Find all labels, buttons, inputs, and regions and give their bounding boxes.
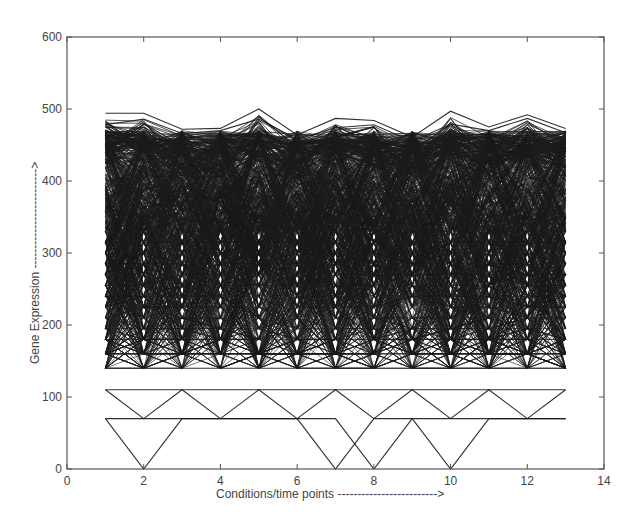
y-axis-label: Gene Expression ------------------------…	[28, 162, 42, 364]
x-tick-label: 14	[597, 474, 611, 488]
x-tick-label: 4	[217, 474, 224, 488]
x-tick-label: 12	[521, 474, 535, 488]
y-tick-label: 100	[42, 390, 62, 404]
expression-line	[105, 419, 565, 469]
x-axis-label: Conditions/time points -----------------…	[216, 487, 444, 501]
x-tick-label: 0	[64, 474, 71, 488]
x-tick-label: 8	[371, 474, 378, 488]
x-tick-label: 10	[444, 474, 458, 488]
expression-lines	[105, 109, 565, 469]
expression-line	[105, 390, 565, 419]
y-tick-label: 300	[42, 246, 62, 260]
expression-line	[105, 419, 565, 469]
line-chart: 02468101214 0100200300400500600 Conditio…	[0, 0, 644, 525]
y-tick-label: 600	[42, 30, 62, 44]
y-tick-label: 400	[42, 174, 62, 188]
x-tick-label: 6	[294, 474, 301, 488]
x-tick-label: 2	[140, 474, 147, 488]
y-tick-label: 200	[42, 318, 62, 332]
y-tick-label: 500	[42, 102, 62, 116]
y-tick-label: 0	[55, 462, 62, 476]
